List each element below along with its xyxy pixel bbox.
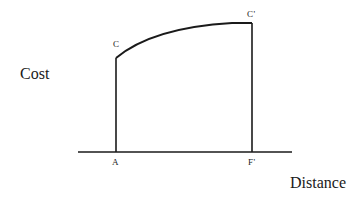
- point-label-a: A: [112, 158, 119, 167]
- cost-distance-diagram: [0, 0, 363, 197]
- cost-curve: [116, 23, 252, 58]
- x-axis-label: Distance: [290, 175, 346, 191]
- y-axis-label: Cost: [20, 66, 49, 82]
- point-label-f-prime: F': [248, 158, 256, 167]
- point-label-c-prime: C': [247, 10, 256, 19]
- point-label-c: C: [113, 40, 120, 49]
- diagram-canvas: Cost Distance C C' A F': [0, 0, 363, 197]
